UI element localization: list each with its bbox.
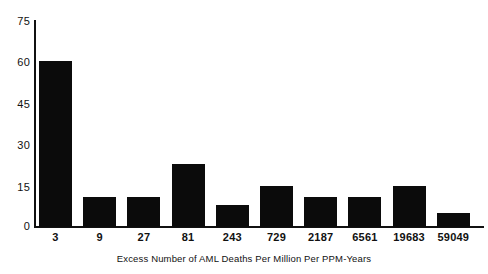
bar (348, 197, 381, 227)
x-axis-tick-label: 81 (166, 231, 210, 244)
x-axis-tick-label: 3 (34, 231, 78, 244)
x-axis-tick-label: 729 (255, 231, 299, 244)
bar (83, 197, 116, 227)
x-axis-tick-label: 59049 (431, 231, 475, 244)
bar-series (36, 20, 484, 227)
y-axis-tick-label: 30 (2, 140, 30, 151)
bar (127, 197, 160, 227)
y-axis-tick-label: 60 (2, 57, 30, 68)
y-axis-tick-label: 15 (2, 182, 30, 193)
x-axis-tick-label: 27 (122, 231, 166, 244)
y-axis-tick-label: 45 (2, 99, 30, 110)
y-axis-tick-label: 0 (2, 221, 30, 232)
bar (260, 186, 293, 227)
x-axis-title: Excess Number of AML Deaths Per Million … (0, 253, 488, 265)
bar (216, 205, 249, 227)
bar (304, 197, 337, 227)
x-axis-tick-label: 6561 (343, 231, 387, 244)
x-axis-tick-label: 243 (210, 231, 254, 244)
bar-chart: 75 60 45 30 15 0 39278124372921876561196… (0, 0, 488, 274)
bar (393, 186, 426, 227)
x-axis-tick-label: 2187 (299, 231, 343, 244)
x-axis-tick-label: 9 (78, 231, 122, 244)
x-axis-tick-labels: 392781243729218765611968359049 (36, 231, 484, 247)
bar (172, 164, 205, 227)
y-axis-tick-label: 75 (2, 16, 30, 27)
y-axis-tick-labels: 75 60 45 30 15 0 (0, 0, 30, 274)
bar (437, 213, 470, 227)
bar (39, 61, 72, 227)
x-axis-tick-label: 19683 (387, 231, 431, 244)
